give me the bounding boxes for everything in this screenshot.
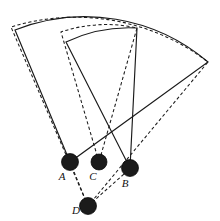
small-solid-sector-outline [66, 28, 137, 168]
label-a: A [58, 170, 66, 182]
large-dashed-sector [11, 17, 208, 206]
label-c: C [89, 170, 97, 182]
small-solid-sector [66, 28, 137, 168]
bob-b [122, 160, 139, 177]
bob-c [91, 154, 107, 170]
bob-a [62, 154, 79, 171]
figure-container: A C B D [0, 0, 220, 221]
large-solid-sector [15, 17, 208, 162]
large-dashed-sector-outline [11, 17, 208, 206]
label-d: D [71, 204, 80, 216]
bob-d [80, 198, 97, 215]
label-b: B [122, 177, 129, 189]
large-solid-sector-outline [15, 17, 208, 162]
sector-diagram: A C B D [0, 0, 220, 221]
